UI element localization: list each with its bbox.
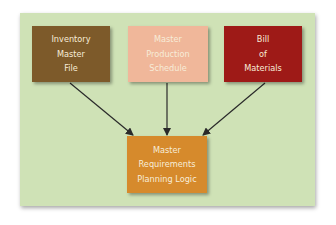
arrow-bom-to-mrp [203, 83, 265, 135]
node-label-line: Requirements [137, 157, 196, 172]
node-label-line: Inventory [51, 32, 90, 47]
node-label-line: Schedule [146, 61, 190, 76]
node-label-line: Planning Logic [137, 172, 196, 187]
node-label-line: File [51, 61, 90, 76]
node-label-line: Master [51, 47, 90, 62]
arrow-inventory-to-mrp [70, 83, 133, 135]
master-production-schedule-box: Master Production Schedule [128, 26, 208, 82]
node-label-line: of [244, 47, 282, 62]
node-label-line: Production [146, 47, 190, 62]
inventory-master-file-box: Inventory Master File [32, 26, 110, 82]
node-label-line: Bill [244, 32, 282, 47]
bill-of-materials-box: Bill of Materials [224, 26, 302, 82]
master-requirements-planning-logic-box: Master Requirements Planning Logic [127, 136, 207, 193]
node-label-line: Master [146, 32, 190, 47]
node-label-line: Materials [244, 61, 282, 76]
node-label-line: Master [137, 143, 196, 158]
